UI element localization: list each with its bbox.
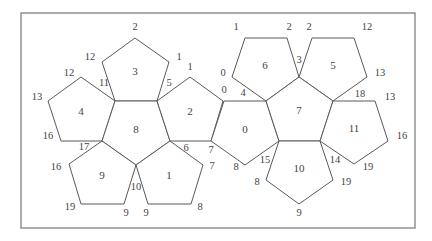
vertex-label: 18	[355, 88, 366, 99]
vertex-label: 2	[286, 21, 291, 32]
vertex-label: 2	[132, 21, 137, 32]
vertex-label: 19	[341, 176, 352, 187]
face-label: 6	[262, 59, 268, 71]
vertex-label: 16	[51, 161, 62, 172]
vertex-label: 5	[166, 77, 171, 88]
vertex-label: 15	[260, 154, 271, 165]
vertex-label: 3	[296, 54, 301, 65]
face-label: 3	[132, 65, 138, 77]
vertex-label: 19	[65, 201, 76, 212]
vertex-label: 9	[143, 207, 148, 218]
vertex-label: 12	[85, 51, 96, 62]
vertex-label: 1	[233, 21, 238, 32]
face-label: 5	[330, 59, 336, 71]
vertex-label: 7	[208, 144, 213, 155]
vertex-label: 14	[330, 154, 341, 165]
face-label: 9	[99, 169, 105, 181]
face-label: 0	[242, 123, 248, 135]
face-label: 1	[166, 169, 172, 181]
vertex-label: 8	[254, 176, 259, 187]
vertex-label: 1	[176, 51, 181, 62]
vertex-label: 19	[363, 161, 374, 172]
face-label: 8	[133, 123, 139, 135]
vertex-label: 13	[32, 91, 43, 102]
vertex-label: 4	[240, 87, 246, 98]
vertex-label: 9	[296, 207, 301, 218]
vertex-label: 11	[99, 77, 109, 88]
vertex-label: 7	[209, 160, 214, 171]
vertex-label: 2	[306, 21, 311, 32]
vertex-label: 1	[187, 61, 192, 72]
face-label: 11	[349, 122, 360, 134]
face-label: 2	[187, 105, 193, 117]
vertex-label: 16	[43, 130, 54, 141]
face-label: 10	[294, 162, 306, 174]
vertex-label: 12	[362, 21, 373, 32]
vertex-label: 6	[183, 142, 188, 153]
vertex-label: 16	[397, 130, 408, 141]
vertex-label: 13	[385, 91, 396, 102]
vertex-label: 10	[131, 181, 142, 192]
vertex-label: 17	[79, 141, 90, 152]
vertex-label: 8	[233, 161, 238, 172]
vertex-label: 0	[220, 67, 225, 78]
vertex-label: 13	[375, 67, 386, 78]
face-label: 7	[296, 104, 302, 116]
vertex-label: 0	[221, 84, 226, 95]
vertex-label: 12	[64, 67, 75, 78]
vertex-label: 8	[197, 201, 202, 212]
dodecahedron-net-diagram: 34829106571110 2121121151131617671671019…	[0, 0, 432, 241]
vertex-label: 9	[123, 207, 128, 218]
face-label: 4	[78, 105, 84, 117]
